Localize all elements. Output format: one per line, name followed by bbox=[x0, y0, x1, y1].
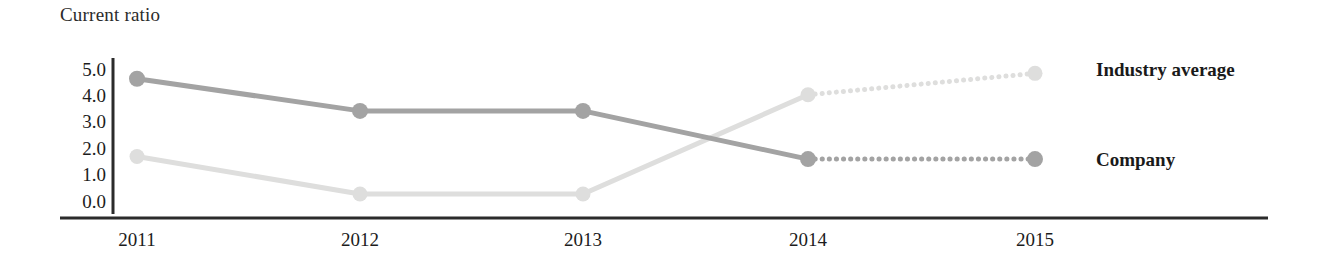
data-point bbox=[130, 149, 145, 164]
data-point bbox=[353, 186, 368, 201]
data-point bbox=[575, 103, 591, 119]
series-forecast-line-industry-average bbox=[808, 73, 1035, 94]
chart-figure: Current ratio 5.0 4.0 3.0 2.0 1.0 0.0 20… bbox=[0, 0, 1335, 277]
data-point bbox=[1027, 151, 1043, 167]
data-point bbox=[1028, 66, 1043, 81]
data-point bbox=[800, 151, 816, 167]
data-point bbox=[576, 186, 591, 201]
chart-plot-area bbox=[0, 0, 1335, 277]
data-point bbox=[801, 87, 816, 102]
data-point bbox=[129, 71, 145, 87]
series-line-company bbox=[137, 79, 808, 159]
data-point bbox=[352, 103, 368, 119]
